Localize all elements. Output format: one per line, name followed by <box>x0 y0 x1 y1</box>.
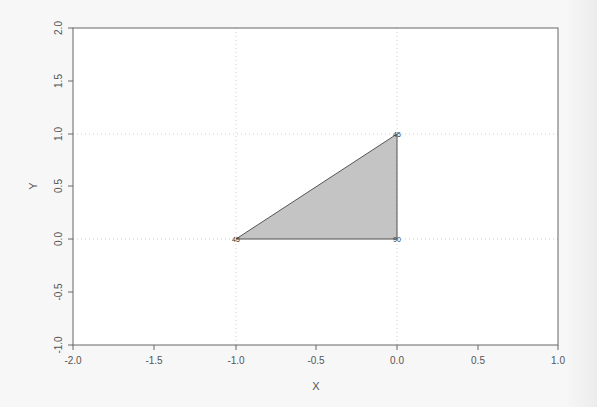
x-axis <box>73 345 558 350</box>
x-tick-label: -1.5 <box>145 355 163 366</box>
x-tick-label: 0.0 <box>390 355 404 366</box>
y-axis <box>68 28 73 345</box>
y-axis-title: Y <box>27 182 39 190</box>
y-tick-label: 1.5 <box>53 74 64 88</box>
x-tick-label: 1.0 <box>551 355 565 366</box>
y-tick-label: 1.0 <box>53 127 64 141</box>
triangle-plot: 45 90 45 -2.0 -1.5 -1.0 -0.5 0.0 0.5 1.0… <box>0 0 597 407</box>
x-tick-label: 0.5 <box>471 355 485 366</box>
x-axis-title: X <box>312 380 320 392</box>
y-tick-label: 0.5 <box>53 179 64 193</box>
x-tick-label: -1.0 <box>227 355 245 366</box>
vertex-label-top: 45 <box>393 131 401 138</box>
y-tick-label: -1.0 <box>53 336 64 354</box>
plot-area <box>73 28 558 345</box>
vertex-label-left: 45 <box>232 236 240 243</box>
y-tick-label: -0.5 <box>53 283 64 301</box>
y-tick-label: 0.0 <box>53 232 64 246</box>
x-tick-label: -0.5 <box>307 355 325 366</box>
vertex-label-right-angle: 90 <box>393 236 401 243</box>
x-tick-label: -2.0 <box>64 355 82 366</box>
y-tick-label: 2.0 <box>53 21 64 35</box>
